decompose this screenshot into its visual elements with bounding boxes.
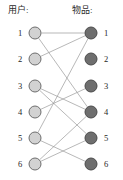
item-node-3 xyxy=(85,80,98,93)
graph-edge xyxy=(41,36,85,57)
item-node-label-2: 2 xyxy=(104,54,108,64)
user-node-label-3: 3 xyxy=(18,81,22,91)
item-node-label-5: 5 xyxy=(104,133,108,143)
graph-edge xyxy=(40,116,86,159)
user-node-2 xyxy=(29,53,42,66)
user-node-label-5: 5 xyxy=(18,133,22,143)
user-node-label-2: 2 xyxy=(18,54,22,64)
item-node-1 xyxy=(85,27,98,40)
item-node-6 xyxy=(85,158,98,171)
user-node-label-4: 4 xyxy=(18,107,22,117)
bipartite-graph-figure: 用户: 物品: 123456123456 xyxy=(0,0,123,180)
item-node-5 xyxy=(85,132,98,145)
item-node-label-3: 3 xyxy=(104,81,108,91)
user-node-label-6: 6 xyxy=(18,159,22,169)
graph-edge xyxy=(38,39,88,133)
item-node-4 xyxy=(85,106,98,119)
item-node-label-4: 4 xyxy=(104,107,108,117)
user-node-label-1: 1 xyxy=(18,28,22,38)
user-node-5 xyxy=(29,132,42,145)
item-node-label-6: 6 xyxy=(104,159,108,169)
user-node-6 xyxy=(29,158,42,171)
item-node-label-1: 1 xyxy=(104,28,108,38)
user-node-3 xyxy=(29,80,42,93)
graph-edge xyxy=(40,90,86,133)
user-node-1 xyxy=(29,27,42,40)
user-node-4 xyxy=(29,106,42,119)
item-node-2 xyxy=(85,53,98,66)
